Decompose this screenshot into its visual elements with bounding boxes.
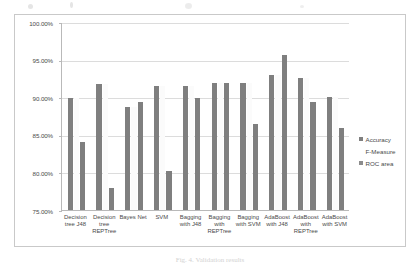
x-axis-category-label: AdaBoost with J48 xyxy=(262,214,293,228)
bar-roc xyxy=(224,83,229,210)
bar-roc xyxy=(253,124,258,210)
bar-fmeasure xyxy=(275,75,280,210)
x-axis-category-label: AdaBoost with SVM xyxy=(319,214,350,228)
bar-roc xyxy=(138,102,143,210)
legend-swatch-icon xyxy=(359,161,363,165)
bar-fmeasure xyxy=(247,83,252,210)
figure-caption: Fig. 4. Validation results xyxy=(0,256,420,264)
legend-label: ROC area xyxy=(366,160,394,167)
chart-legend: AccuracyF-MeasureROC area xyxy=(359,133,405,169)
plot-area xyxy=(61,23,349,211)
legend-item-accuracy: Accuracy xyxy=(359,133,405,145)
x-axis-category-label: SVM xyxy=(146,214,177,221)
y-axis-tick xyxy=(59,211,62,212)
bar-chart: 100.00%95.00%90.00%85.00%80.00%75.00% De… xyxy=(14,14,406,247)
bar-fmeasure xyxy=(218,83,223,210)
y-axis-tick-label: 80.00% xyxy=(17,170,53,177)
bar-fmeasure xyxy=(131,107,136,210)
bar-accuracy xyxy=(183,86,188,210)
bar-fmeasure xyxy=(160,86,165,210)
bar-accuracy xyxy=(125,107,130,210)
x-axis-category-label: AdaBoost with REPTree xyxy=(290,214,321,236)
x-axis-category-label: Bagging with J48 xyxy=(175,214,206,228)
bar-accuracy xyxy=(298,78,303,210)
bar-roc xyxy=(80,142,85,210)
bar-fmeasure xyxy=(304,78,309,210)
x-axis-category-label: Bagging with SVM xyxy=(233,214,264,228)
legend-label: F-Measure xyxy=(366,148,396,155)
y-axis-tick-label: 85.00% xyxy=(17,132,53,139)
x-axis-category-label: Bagging with REPTree xyxy=(204,214,235,236)
bar-accuracy xyxy=(327,97,332,210)
plot-wrapper: 100.00%95.00%90.00%85.00%80.00%75.00% De… xyxy=(15,15,407,248)
y-axis-tick-label: 75.00% xyxy=(17,208,53,215)
legend-label: Accuracy xyxy=(366,136,391,143)
bar-accuracy xyxy=(96,84,101,210)
y-axis-tick-label: 100.00% xyxy=(17,20,53,27)
bar-accuracy xyxy=(240,83,245,210)
bar-accuracy xyxy=(212,83,217,210)
x-axis-category-label: Decision tree J48 xyxy=(60,214,91,228)
bar-fmeasure xyxy=(333,97,338,210)
y-axis-tick-label: 95.00% xyxy=(17,57,53,64)
bar-accuracy xyxy=(154,86,159,210)
legend-item-roc: ROC area xyxy=(359,157,405,169)
bar-fmeasure xyxy=(103,84,108,210)
bar-roc xyxy=(282,55,287,210)
bar-roc xyxy=(109,188,114,210)
bar-fmeasure xyxy=(74,98,79,210)
x-axis-category-label: Bayes Net xyxy=(118,214,149,221)
x-axis-category-label: Decision tree REPTree xyxy=(89,214,120,236)
bar-roc xyxy=(166,171,171,210)
gridline xyxy=(62,23,349,24)
scan-artifacts xyxy=(0,0,420,14)
bar-accuracy xyxy=(269,75,274,210)
legend-swatch-icon xyxy=(359,137,363,141)
bar-roc xyxy=(339,128,344,210)
y-axis-tick-label: 90.00% xyxy=(17,95,53,102)
bar-fmeasure xyxy=(189,86,194,210)
bar-roc xyxy=(195,98,200,210)
bar-accuracy xyxy=(68,98,73,210)
bar-roc xyxy=(310,102,315,210)
gridline xyxy=(62,61,349,62)
legend-item-fmeasure: F-Measure xyxy=(359,145,405,157)
